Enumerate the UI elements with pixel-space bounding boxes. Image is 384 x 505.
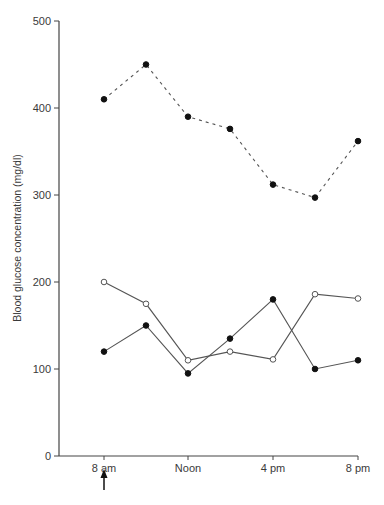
filled-circle-marker [355,138,361,144]
filled-circle-marker [227,336,233,342]
filled-circle-marker [312,366,318,372]
x-tick-label: Noon [175,462,201,474]
y-axis-label: Blood glucose concentration (mg/dl) [11,154,23,322]
line-chart: 01002003004005008 amNoon4 pm8 pm Blood g… [0,0,384,505]
y-tick-label: 200 [33,276,51,288]
y-tick-label: 500 [33,15,51,27]
series-filled-solid [101,297,361,377]
figure-caption-cutoff [4,496,384,505]
filled-circle-marker [185,371,191,377]
open-circle-marker [101,279,107,285]
open-circle-marker [312,291,318,297]
open-circle-marker [227,349,233,355]
filled-circle-marker [312,195,318,201]
filled-circle-marker [227,126,233,132]
open-circle-marker [185,358,191,364]
filled-circle-marker [270,297,276,303]
x-tick-label: 8 pm [346,462,370,474]
filled-circle-marker [143,323,149,329]
filled-circle-marker [185,114,191,120]
y-tick-label: 0 [45,450,51,462]
series-filled-dashed [101,62,361,201]
open-circle-marker [270,357,276,363]
y-tick-label: 100 [33,363,51,375]
y-tick-label: 400 [33,102,51,114]
filled-circle-marker [101,349,107,355]
filled-circle-marker [101,97,107,103]
series-open-solid [101,279,361,363]
open-circle-marker [355,296,361,302]
filled-circle-marker [143,62,149,68]
open-circle-marker [143,301,149,307]
x-tick-label: 4 pm [261,462,285,474]
filled-circle-marker [270,182,276,188]
data-series [101,62,361,377]
axes: 01002003004005008 amNoon4 pm8 pm [33,15,371,474]
filled-circle-marker [355,358,361,364]
y-tick-label: 300 [33,189,51,201]
